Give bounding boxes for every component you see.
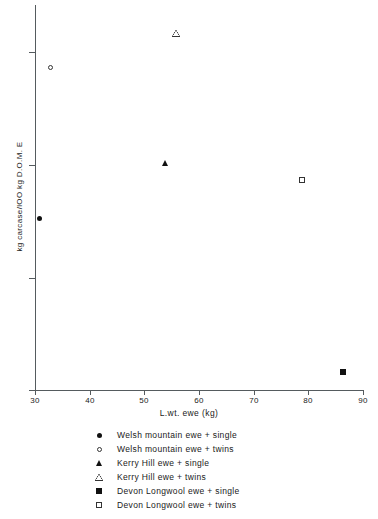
- open-circle-icon: [97, 447, 102, 452]
- legend-label: Welsh mountain ewe + single: [117, 428, 237, 442]
- y-axis-title: kg carcase/lOO kg D.O.M. E: [15, 97, 24, 297]
- legend-label: Kerry Hill ewe + single: [117, 456, 209, 470]
- x-tick-label-70: 70: [242, 396, 266, 405]
- legend-item-devon-longwool-single: Devon Longwool ewe + single: [0, 484, 378, 498]
- open-square-icon: [96, 502, 102, 508]
- y-axis-line: [35, 5, 36, 390]
- legend-label: Devon Longwool ewe + twins: [117, 498, 236, 512]
- y-tick-7: [29, 165, 35, 166]
- filled-square-icon: [96, 488, 102, 494]
- x-tick-80: [308, 390, 309, 395]
- open-triangle-icon: [95, 474, 103, 481]
- x-tick-40: [90, 390, 91, 395]
- y-tick-6: [29, 278, 35, 279]
- legend-item-devon-longwool-twins: Devon Longwool ewe + twins: [0, 498, 378, 512]
- datapoint-kerry-hill-single: [162, 160, 168, 166]
- x-tick-label-80: 80: [296, 396, 320, 405]
- datapoint-kerry-hill-twins: [172, 30, 180, 37]
- x-tick-label-50: 50: [132, 396, 156, 405]
- x-tick-label-90: 90: [351, 396, 375, 405]
- legend-label: Devon Longwool ewe + single: [117, 484, 240, 498]
- scatter-plot-figure: 8 7 6 5 30 40 50 60 70 80 90 kg carcase/…: [0, 0, 378, 519]
- x-tick-label-40: 40: [78, 396, 102, 405]
- datapoint-welsh-mountain-single: [37, 216, 42, 221]
- legend-item-kerry-hill-single: Kerry Hill ewe + single: [0, 456, 378, 470]
- filled-circle-icon: [97, 433, 102, 438]
- x-tick-label-60: 60: [187, 396, 211, 405]
- x-tick-50: [144, 390, 145, 395]
- x-axis-title: L.wt. ewe (kg): [0, 408, 378, 418]
- legend: Welsh mountain ewe + single Welsh mounta…: [0, 428, 378, 512]
- x-tick-90: [363, 390, 364, 395]
- legend-item-welsh-mountain-single: Welsh mountain ewe + single: [0, 428, 378, 442]
- x-tick-label-30: 30: [23, 396, 47, 405]
- filled-triangle-icon: [96, 460, 102, 466]
- x-tick-70: [254, 390, 255, 395]
- datapoint-devon-longwool-twins: [299, 177, 305, 183]
- y-tick-8: [29, 52, 35, 53]
- legend-item-welsh-mountain-twins: Welsh mountain ewe + twins: [0, 442, 378, 456]
- x-tick-30: [35, 390, 36, 395]
- datapoint-welsh-mountain-twins: [48, 65, 53, 70]
- x-tick-60: [199, 390, 200, 395]
- datapoint-devon-longwool-single: [340, 369, 346, 375]
- legend-item-kerry-hill-twins: Kerry Hill ewe + twins: [0, 470, 378, 484]
- legend-label: Welsh mountain ewe + twins: [117, 442, 234, 456]
- legend-label: Kerry Hill ewe + twins: [117, 470, 206, 484]
